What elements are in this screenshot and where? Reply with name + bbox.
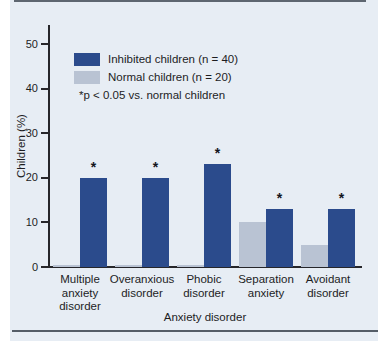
bar-normal-2 (177, 265, 204, 267)
legend-label-normal: Normal children (n = 20) (108, 71, 232, 84)
bar-chart: Children (%) 01020304050 ***** Multiplea… (0, 0, 378, 341)
bar-inhibited-2 (204, 164, 231, 267)
category-label-line: disorder (280, 287, 376, 301)
y-tick-label: 40 (14, 82, 38, 95)
significance-asterisk: * (204, 146, 231, 160)
bar-normal-3 (239, 222, 266, 267)
bar-inhibited-4 (328, 209, 355, 267)
significance-asterisk: * (266, 191, 293, 205)
chart-legend: Inhibited children (n = 40) Normal child… (74, 53, 238, 102)
bar-inhibited-1 (142, 178, 169, 267)
bar-normal-1 (115, 265, 142, 267)
y-tick-label: 0 (14, 261, 38, 274)
y-tick-label: 30 (14, 127, 38, 140)
significance-asterisk: * (80, 160, 107, 174)
y-axis-line (48, 25, 50, 268)
category-label-line: Avoidant (280, 273, 376, 287)
x-axis-title: Anxiety disorder (90, 311, 320, 323)
bar-normal-4 (301, 245, 328, 267)
y-tick-mark (41, 43, 48, 45)
legend-swatch-inhibited-icon (74, 53, 100, 66)
y-tick-mark (41, 221, 48, 223)
y-tick-label: 50 (14, 38, 38, 51)
legend-label-inhibited: Inhibited children (n = 40) (108, 53, 238, 66)
y-tick-mark (41, 177, 48, 179)
significance-note: *p < 0.05 vs. normal children (79, 89, 238, 102)
legend-swatch-normal-icon (74, 71, 100, 84)
bar-normal-0 (53, 265, 80, 267)
y-tick-mark (41, 88, 48, 90)
y-axis-title: Children (%) (15, 114, 27, 178)
y-tick-label: 20 (14, 171, 38, 184)
significance-asterisk: * (142, 160, 169, 174)
legend-item-normal: Normal children (n = 20) (74, 71, 238, 84)
y-tick-mark (41, 266, 48, 268)
significance-asterisk: * (328, 191, 355, 205)
category-label: Avoidantdisorder (280, 273, 376, 300)
y-tick-mark (41, 132, 48, 134)
bar-inhibited-3 (266, 209, 293, 267)
legend-item-inhibited: Inhibited children (n = 40) (74, 53, 238, 66)
y-tick-label: 10 (14, 216, 38, 229)
bar-inhibited-0 (80, 178, 107, 267)
